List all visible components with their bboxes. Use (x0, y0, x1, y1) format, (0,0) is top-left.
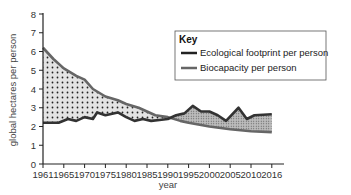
x-tick-label: 1995 (178, 169, 199, 180)
x-tick-label: 2000 (199, 169, 220, 180)
y-tick-label: 1 (31, 140, 36, 151)
legend-label-biocapacity: Biocapacity per person (200, 62, 297, 73)
x-tick-label: 1980 (116, 169, 137, 180)
y-tick-label: 8 (31, 9, 36, 20)
reserve-area (43, 48, 171, 123)
y-tick-label: 4 (31, 84, 36, 95)
x-tick-label: 1961 (32, 169, 53, 180)
y-tick-label: 7 (31, 27, 36, 38)
legend: Key Ecological footprint per person Bioc… (175, 31, 328, 80)
y-tick-label: 0 (31, 159, 36, 170)
y-tick-label: 5 (31, 65, 36, 76)
x-tick-label: 1970 (74, 169, 95, 180)
y-axis-label: global hectares per person (7, 34, 18, 147)
x-ticks: 1961196519701975198019851990199520002005… (32, 164, 282, 180)
x-tick-label: 2016 (261, 169, 282, 180)
y-ticks: 012345678 (31, 9, 43, 170)
footprint-biocapacity-chart: 012345678 196119651970197519801985199019… (0, 0, 351, 195)
x-tick-label: 1965 (53, 169, 74, 180)
legend-label-footprint: Ecological footprint per person (200, 47, 328, 58)
legend-title: Key (179, 34, 198, 45)
x-tick-label: 1985 (136, 169, 157, 180)
x-tick-label: 2010 (240, 169, 261, 180)
y-tick-label: 3 (31, 102, 36, 113)
x-tick-label: 1975 (95, 169, 116, 180)
y-tick-label: 6 (31, 46, 36, 57)
x-tick-label: 2005 (220, 169, 241, 180)
x-axis-label: year (159, 179, 177, 190)
y-tick-label: 2 (31, 121, 36, 132)
